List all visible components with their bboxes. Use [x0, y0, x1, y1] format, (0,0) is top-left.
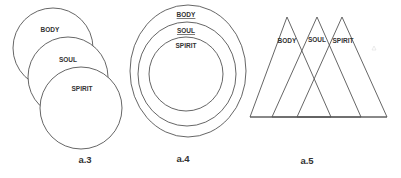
soul-ring	[138, 22, 236, 126]
body-ring	[130, 5, 246, 137]
label-body: BODY	[177, 11, 196, 18]
caption-a4: a.4	[176, 153, 190, 164]
body-triangle	[250, 17, 331, 117]
label-body: BODY	[278, 37, 297, 44]
figure-a3: BODY SOUL SPIRIT a.3	[13, 8, 122, 165]
label-spirit: SPIRIT	[176, 42, 197, 49]
diagram-canvas: BODY SOUL SPIRIT a.3 BODY SOUL SPIRIT a.…	[0, 0, 401, 178]
figure-a4: BODY SOUL SPIRIT a.4	[130, 5, 246, 164]
label-soul: SOUL	[177, 27, 195, 34]
caption-a3: a.3	[78, 154, 91, 165]
label-spirit: SPIRIT	[333, 37, 354, 44]
figure-a5: BODY SOUL SPIRIT a.5	[250, 17, 387, 166]
label-body: BODY	[41, 26, 60, 33]
label-soul: SOUL	[308, 36, 326, 43]
faint-mark-icon	[372, 46, 376, 50]
caption-a5: a.5	[300, 155, 314, 166]
label-spirit: SPIRIT	[72, 85, 93, 92]
soul-triangle	[272, 17, 361, 117]
label-soul: SOUL	[59, 56, 77, 63]
